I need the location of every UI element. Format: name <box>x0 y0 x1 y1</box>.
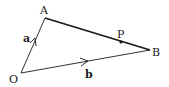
label-vector-b: b <box>85 68 93 81</box>
vector-a-line <box>21 18 45 73</box>
label-b-point: B <box>152 46 160 59</box>
label-o-point: O <box>9 73 18 86</box>
vector-diagram: A O B P a b <box>0 0 169 87</box>
segment-ab <box>45 18 150 50</box>
label-a-point: A <box>39 4 49 17</box>
label-vector-a: a <box>23 32 30 45</box>
label-p-point: P <box>117 28 125 41</box>
